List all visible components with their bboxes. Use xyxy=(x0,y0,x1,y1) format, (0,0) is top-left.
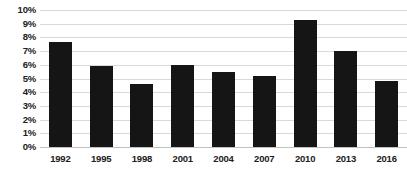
y-tick-label: 0% xyxy=(23,142,36,152)
y-tick-label: 9% xyxy=(23,19,36,29)
bar-chart: 10%9%8%7%6%5%4%3%2%1%0% 1992199519982001… xyxy=(0,0,407,184)
y-tick-label: 4% xyxy=(23,87,36,97)
bar xyxy=(130,84,153,147)
x-tick-label: 1998 xyxy=(132,154,152,164)
x-tick-label: 1995 xyxy=(91,154,111,164)
y-tick-label: 5% xyxy=(23,74,36,84)
y-tick-label: 6% xyxy=(23,60,36,70)
x-axis: 199219951998200120042007201020132016 xyxy=(40,150,407,174)
bar xyxy=(253,76,276,147)
bar xyxy=(90,66,113,147)
x-tick-label: 2013 xyxy=(336,154,356,164)
y-tick-label: 2% xyxy=(23,115,36,125)
y-tick-label: 8% xyxy=(23,33,36,43)
y-tick-label: 7% xyxy=(23,46,36,56)
bar xyxy=(171,65,194,147)
bar xyxy=(49,42,72,147)
bar xyxy=(294,20,317,147)
x-tick-label: 2001 xyxy=(173,154,193,164)
x-tick-label: 2010 xyxy=(295,154,315,164)
y-tick-label: 3% xyxy=(23,101,36,111)
y-tick-label: 1% xyxy=(23,129,36,139)
y-tick-label: 10% xyxy=(18,5,36,15)
bar xyxy=(212,72,235,147)
bar xyxy=(375,81,398,147)
x-tick-label: 2004 xyxy=(213,154,233,164)
x-tick-label: 2016 xyxy=(376,154,396,164)
x-tick-label: 2007 xyxy=(254,154,274,164)
x-tick-label: 1992 xyxy=(50,154,70,164)
bars-layer xyxy=(40,10,407,147)
y-axis: 10%9%8%7%6%5%4%3%2%1%0% xyxy=(0,0,40,152)
plot-area xyxy=(40,10,407,147)
gridline xyxy=(40,147,407,148)
bar xyxy=(334,51,357,147)
